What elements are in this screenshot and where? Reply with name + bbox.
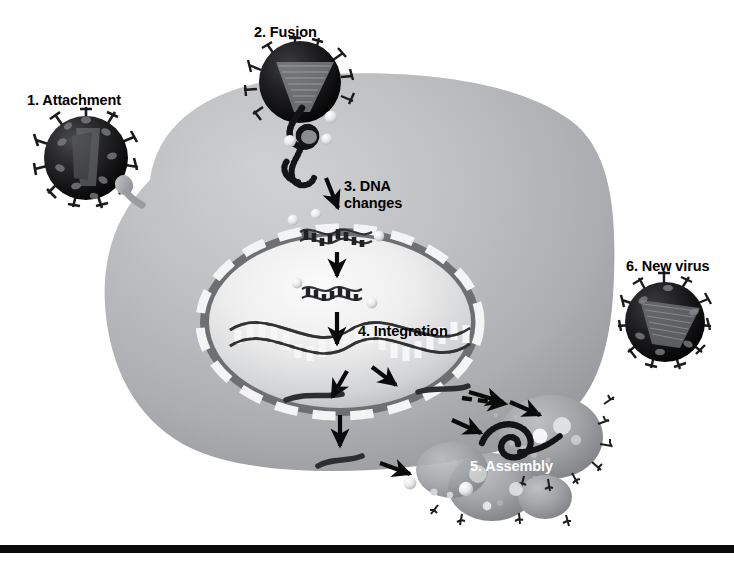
virus2-bead-1 <box>325 111 337 123</box>
virus2-enzyme <box>301 130 317 144</box>
cell-nucleus <box>200 228 480 416</box>
virus1-capsid <box>72 128 100 186</box>
virus-new <box>618 271 711 369</box>
hiv-replication-illustration <box>0 0 734 570</box>
virus2-bead-2 <box>284 135 296 147</box>
budding-lobe-3 <box>518 475 572 519</box>
virus-attachment <box>34 107 142 208</box>
bottom-divider-rule <box>0 545 734 553</box>
diagram-canvas: 1. Attachment 2. Fusion 3. DNA changes 4… <box>0 0 734 570</box>
virus2-bead-3 <box>321 133 332 144</box>
